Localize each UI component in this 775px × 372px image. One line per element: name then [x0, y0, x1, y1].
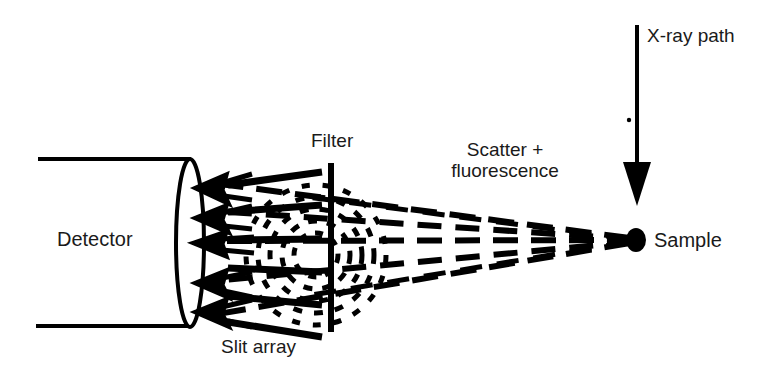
scatter-fluorescence-label: Scatter + fluorescence [451, 139, 559, 182]
scatter-label-line-1: Scatter + [451, 139, 559, 160]
filter-label: Filter [311, 130, 353, 151]
ink-speck [627, 118, 631, 122]
scatter-fluorescence-ray-fan [212, 183, 632, 315]
xray-arrow-head [623, 162, 651, 206]
arrow-tail-3a [222, 237, 254, 239]
scatter-label-line-2: fluorescence [451, 160, 559, 181]
slit-array-label: Slit array [221, 336, 296, 357]
arrow-tail-2b [224, 226, 252, 229]
diagram-canvas [0, 0, 775, 372]
sample-label: Sample [654, 229, 722, 251]
arrow-tail-3b [222, 250, 254, 253]
xray-path-label: X-ray path [647, 25, 735, 46]
xray-path-arrow [623, 25, 651, 206]
xrf-geometry-diagram: Detector Slit array Filter Scatter + flu… [0, 0, 775, 372]
sample-marker [626, 228, 646, 252]
detector-label: Detector [57, 228, 133, 250]
slit-bar-4 [228, 268, 322, 272]
